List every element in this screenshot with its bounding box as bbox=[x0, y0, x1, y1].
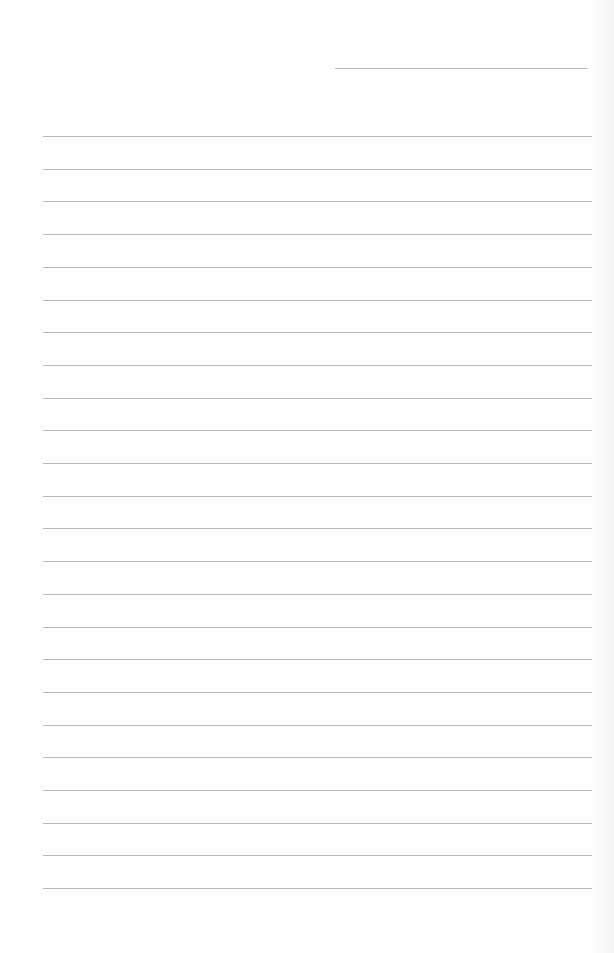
ruled-line bbox=[43, 136, 592, 137]
ruled-line bbox=[43, 659, 592, 660]
ruled-line bbox=[43, 528, 592, 529]
ruled-line bbox=[43, 300, 592, 301]
ruled-line bbox=[43, 855, 592, 856]
ruled-line bbox=[43, 823, 592, 824]
ruled-line bbox=[43, 888, 592, 889]
lined-paper-page bbox=[0, 0, 614, 953]
ruled-line bbox=[43, 757, 592, 758]
ruled-line bbox=[43, 169, 592, 170]
ruled-line bbox=[43, 201, 592, 202]
ruled-line bbox=[43, 365, 592, 366]
ruled-line bbox=[43, 267, 592, 268]
ruled-line bbox=[43, 692, 592, 693]
ruled-line bbox=[43, 594, 592, 595]
ruled-line bbox=[43, 463, 592, 464]
ruled-line bbox=[43, 561, 592, 562]
page-edge-shadow bbox=[592, 0, 614, 953]
ruled-line bbox=[43, 332, 592, 333]
header-name-line bbox=[335, 68, 587, 69]
ruled-line bbox=[43, 234, 592, 235]
ruled-line bbox=[43, 430, 592, 431]
ruled-line bbox=[43, 790, 592, 791]
ruled-line bbox=[43, 725, 592, 726]
ruled-line bbox=[43, 496, 592, 497]
ruled-line bbox=[43, 398, 592, 399]
ruled-line bbox=[43, 627, 592, 628]
